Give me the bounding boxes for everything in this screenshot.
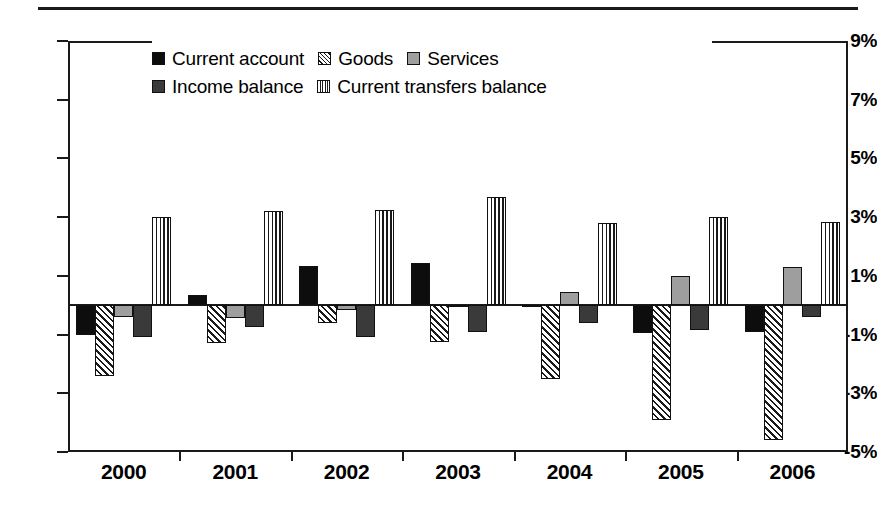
bar: [114, 305, 133, 317]
y-tick-mark: [57, 275, 68, 277]
bar-chart: 9%7%5%3%1%-1%-3%-5% Current accountGoods…: [0, 0, 877, 513]
x-tick-label: 2005: [641, 461, 721, 482]
x-tick-label: 2006: [752, 461, 832, 482]
bar: [264, 211, 283, 305]
bar: [598, 223, 617, 305]
legend-swatch-icon: [407, 52, 420, 65]
legend-label: Current account: [172, 49, 304, 68]
bar: [802, 305, 821, 317]
x-tick-label: 2000: [84, 461, 164, 482]
bar: [541, 305, 560, 378]
bar: [468, 305, 487, 331]
bar: [299, 266, 318, 306]
x-tick-mark: [179, 452, 181, 461]
bar: [188, 295, 207, 305]
legend-item: Current transfers balance: [317, 77, 546, 96]
legend-swatch-icon: [152, 80, 165, 93]
bar: [152, 217, 171, 305]
bar: [430, 305, 449, 342]
bar: [579, 305, 598, 323]
bar: [560, 292, 579, 305]
bar: [522, 305, 541, 307]
bar: [245, 305, 264, 327]
chart-legend: Current accountGoodsServices Income bala…: [152, 40, 712, 106]
x-tick-mark: [625, 452, 627, 461]
bar: [745, 305, 764, 331]
bar: [652, 305, 671, 419]
bar: [411, 263, 430, 306]
bar: [356, 305, 375, 337]
x-tick-mark: [514, 452, 516, 461]
y-tick-mark: [57, 216, 68, 218]
legend-item: Goods: [318, 49, 393, 68]
y-tick-mark: [57, 99, 68, 101]
bar: [207, 305, 226, 343]
bar: [487, 197, 506, 306]
x-tick-label: 2003: [418, 461, 498, 482]
legend-label: Services: [427, 49, 498, 68]
x-tick-mark: [291, 452, 293, 461]
y-tick-mark: [57, 451, 68, 453]
legend-row-1: Current accountGoodsServices: [152, 44, 712, 72]
bar: [821, 222, 840, 306]
bar: [764, 305, 783, 440]
y-tick-mark: [57, 334, 68, 336]
x-tick-label: 2001: [195, 461, 275, 482]
y-tick-mark: [57, 392, 68, 394]
legend-item: Current account: [152, 49, 304, 68]
x-tick-label: 2002: [307, 461, 387, 482]
legend-row-2: Income balanceCurrent transfers balance: [152, 72, 712, 100]
y-tick-mark: [57, 40, 68, 42]
bar: [76, 305, 95, 334]
y-tick-mark: [57, 157, 68, 159]
bar: [633, 305, 652, 333]
bar: [671, 276, 690, 305]
bar: [337, 305, 356, 309]
legend-label: Income balance: [172, 77, 303, 96]
legend-label: Current transfers balance: [337, 77, 546, 96]
legend-item: Services: [407, 49, 498, 68]
bar: [133, 305, 152, 337]
bar: [95, 305, 114, 375]
legend-label: Goods: [338, 49, 393, 68]
legend-item: Income balance: [152, 77, 303, 96]
bar: [690, 305, 709, 330]
bar: [709, 217, 728, 305]
bar: [226, 305, 245, 318]
bar: [449, 305, 468, 307]
legend-swatch-icon: [152, 52, 165, 65]
legend-swatch-icon: [317, 80, 330, 93]
bar: [375, 210, 394, 305]
bar: [318, 305, 337, 323]
legend-swatch-icon: [318, 52, 331, 65]
x-tick-mark: [737, 452, 739, 461]
x-tick-mark: [402, 452, 404, 461]
x-tick-label: 2004: [529, 461, 609, 482]
bar: [783, 267, 802, 305]
